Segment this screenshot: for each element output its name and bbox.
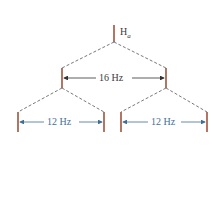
first-split-label: 16 Hz [99, 73, 123, 83]
splitting-tree-diagram [0, 0, 224, 199]
top-signal-label: Ha [120, 27, 131, 41]
second-split-label-left: 12 Hz [47, 117, 71, 127]
second-split-label-right: 12 Hz [151, 117, 175, 127]
